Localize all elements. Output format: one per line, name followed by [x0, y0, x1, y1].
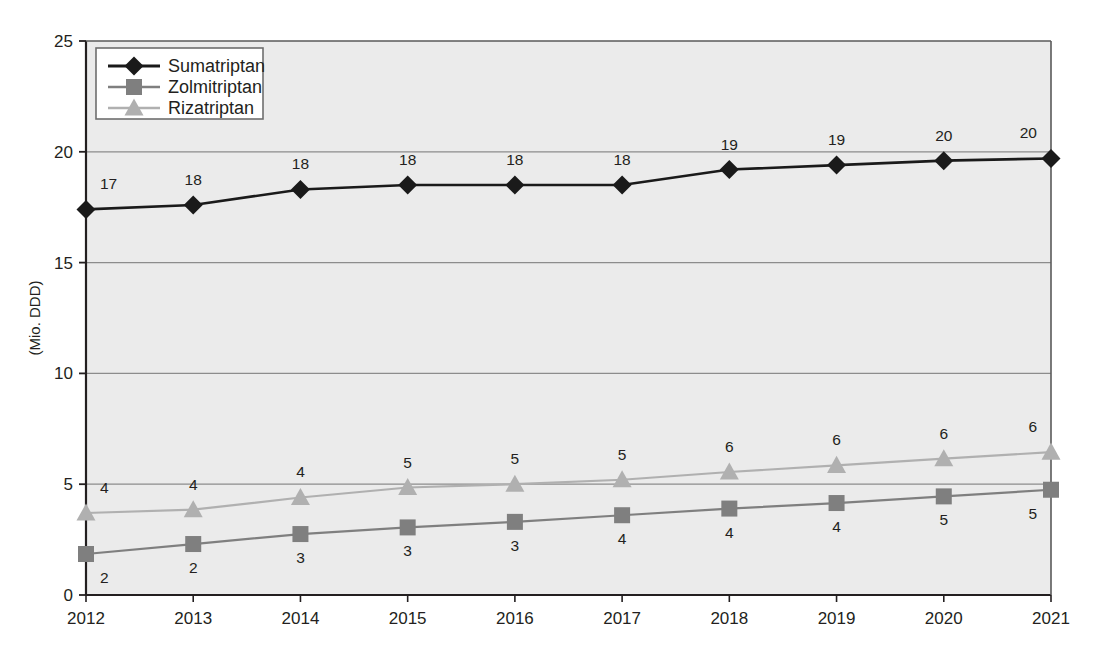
data-label: 5	[511, 450, 520, 467]
data-label: 20	[1020, 124, 1038, 141]
chart-container: 0510152025 20122013201420152016201720182…	[0, 0, 1097, 651]
x-tick-label: 2019	[818, 609, 856, 628]
data-label: 19	[828, 131, 845, 148]
data-label: 4	[100, 479, 109, 496]
data-point-marker	[1043, 482, 1059, 498]
data-label: 2	[100, 569, 109, 586]
data-label: 6	[939, 425, 948, 442]
legend-label: Zolmitriptan	[168, 77, 262, 97]
data-label: 3	[296, 549, 305, 566]
data-label: 19	[721, 136, 738, 153]
data-label: 6	[1028, 418, 1037, 435]
data-point-marker	[507, 514, 523, 530]
data-point-marker	[292, 526, 308, 542]
y-tick-label: 10	[54, 364, 73, 383]
data-point-marker	[829, 495, 845, 511]
data-label: 2	[189, 559, 198, 576]
data-label: 4	[189, 476, 198, 493]
x-tick-label: 2021	[1032, 609, 1070, 628]
data-label: 3	[403, 542, 412, 559]
data-point-marker	[185, 536, 201, 552]
data-label: 18	[292, 155, 309, 172]
data-label: 4	[725, 524, 734, 541]
x-tick-label: 2016	[496, 609, 534, 628]
legend-label: Rizatriptan	[168, 98, 254, 118]
data-label: 4	[832, 518, 841, 535]
data-label: 6	[725, 438, 734, 455]
x-tick-label: 2017	[603, 609, 641, 628]
data-point-marker	[936, 488, 952, 504]
data-label: 4	[296, 463, 305, 480]
y-tick-label: 15	[54, 254, 73, 273]
x-tick-label: 2012	[67, 609, 105, 628]
data-label: 18	[613, 151, 630, 168]
y-tick-label: 25	[54, 32, 73, 51]
x-tick-label: 2015	[389, 609, 427, 628]
data-point-marker	[614, 507, 630, 523]
x-tick-label: 2014	[282, 609, 320, 628]
data-point-marker	[721, 501, 737, 517]
square-icon	[126, 79, 142, 95]
data-point-marker	[78, 546, 94, 562]
data-label: 4	[618, 530, 627, 547]
y-tick-label: 5	[64, 475, 73, 494]
data-label: 5	[403, 454, 412, 471]
data-label: 6	[832, 431, 841, 448]
x-tick-label: 2018	[710, 609, 748, 628]
data-label: 5	[1028, 505, 1037, 522]
x-tick-label: 2013	[174, 609, 212, 628]
x-axis-ticks: 2012201320142015201620172018201920202021	[67, 595, 1070, 628]
y-axis-title: (Mio. DDD)	[26, 281, 43, 356]
x-tick-label: 2020	[925, 609, 963, 628]
data-point-marker	[400, 519, 416, 535]
data-label: 18	[506, 151, 523, 168]
data-label: 20	[935, 127, 953, 144]
data-label: 5	[618, 446, 627, 463]
plot-area-background	[86, 41, 1051, 595]
data-label: 18	[185, 171, 202, 188]
line-chart: 0510152025 20122013201420152016201720182…	[0, 0, 1097, 651]
chart-legend: SumatriptanZolmitriptanRizatriptan	[96, 48, 265, 119]
data-label: 17	[100, 175, 117, 192]
legend-label: Sumatriptan	[168, 56, 265, 76]
data-label: 5	[939, 511, 948, 528]
data-label: 18	[399, 151, 416, 168]
y-tick-label: 0	[64, 586, 73, 605]
y-tick-label: 20	[54, 143, 73, 162]
data-label: 3	[511, 537, 520, 554]
